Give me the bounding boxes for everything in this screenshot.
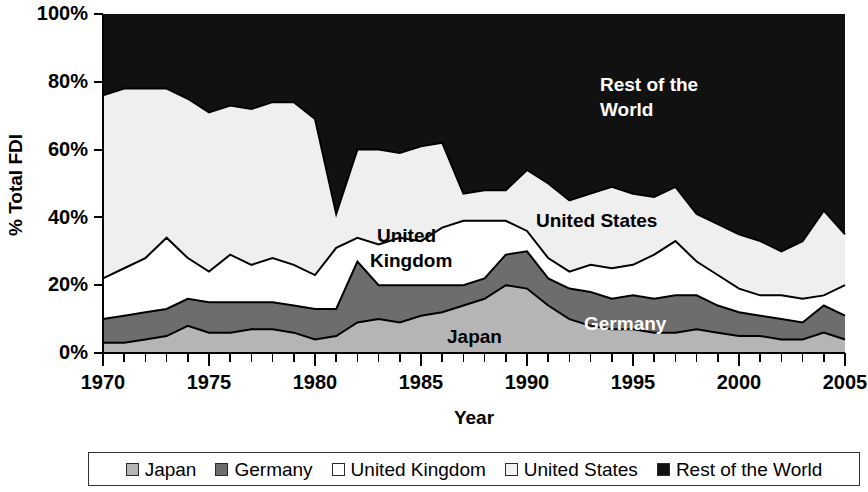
chart-legend: JapanGermanyUnited KingdomUnited StatesR… [88, 452, 860, 486]
series-label-united-kingdom-line1: United [377, 225, 436, 246]
series-label-united-states: United States [536, 210, 657, 231]
series-label-united-kingdom-line2: Kingdom [370, 250, 452, 271]
x-tick-label: 1985 [399, 371, 444, 393]
series-label-japan: Japan [447, 326, 502, 347]
x-tick-label: 1975 [187, 371, 232, 393]
y-axis-title: % Total FDI [5, 134, 26, 236]
legend-label: Rest of the World [676, 460, 822, 479]
legend-swatch-icon [332, 463, 345, 476]
y-tick-label: 80% [48, 70, 88, 92]
x-tick-label: 1970 [81, 371, 126, 393]
legend-label: Japan [145, 460, 197, 479]
y-axis-ticks [94, 14, 103, 353]
legend-item-united-states[interactable]: United States [505, 460, 638, 479]
y-tick-label: 20% [48, 273, 88, 295]
legend-label: United Kingdom [351, 460, 486, 479]
series-label-rest-of-world-line2: World [600, 99, 653, 120]
legend-item-germany[interactable]: Germany [215, 460, 312, 479]
y-tick-label: 100% [37, 2, 88, 24]
x-tick-label: 1980 [293, 371, 338, 393]
x-tick-label: 2000 [717, 371, 762, 393]
y-tick-label: 40% [48, 206, 88, 228]
legend-swatch-icon [657, 463, 670, 476]
x-tick-label: 1990 [505, 371, 550, 393]
legend-item-japan[interactable]: Japan [126, 460, 197, 479]
legend-label: United States [524, 460, 638, 479]
y-axis-tick-labels: 0%20%40%60%80%100% [37, 2, 88, 363]
series-label-rest-of-world-line1: Rest of the [600, 74, 698, 95]
x-axis-ticks [103, 353, 845, 366]
legend-swatch-icon [505, 463, 518, 476]
x-axis-title: Year [454, 407, 495, 428]
y-tick-label: 0% [59, 341, 88, 363]
chart-page: 0%20%40%60%80%100% 197019751980198519901… [0, 0, 868, 492]
x-tick-label: 2005 [823, 371, 868, 393]
legend-swatch-icon [215, 463, 228, 476]
x-axis-tick-labels: 19701975198019851990199520002005 [81, 371, 868, 393]
chart-canvas: 0%20%40%60%80%100% 197019751980198519901… [0, 0, 868, 438]
y-tick-label: 60% [48, 138, 88, 160]
legend-item-united-kingdom[interactable]: United Kingdom [332, 460, 486, 479]
legend-item-rest-of-the-world[interactable]: Rest of the World [657, 460, 822, 479]
legend-swatch-icon [126, 463, 139, 476]
stacked-area-chart: 0%20%40%60%80%100% 197019751980198519901… [0, 0, 868, 438]
series-label-germany: Germany [584, 313, 667, 334]
x-tick-label: 1995 [611, 371, 656, 393]
legend-label: Germany [234, 460, 312, 479]
